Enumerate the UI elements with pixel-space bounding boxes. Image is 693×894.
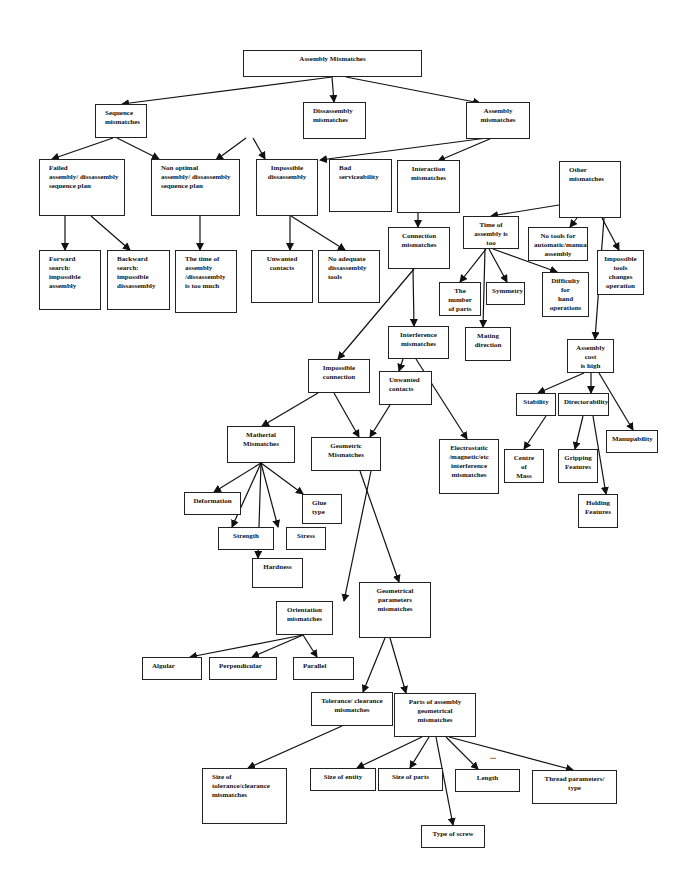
node-label: Other mismatches: [569, 166, 615, 184]
node-imptools: Impossible tools changes operation: [597, 250, 644, 295]
arrow: [524, 416, 546, 449]
node-label: Parallel: [303, 662, 348, 671]
arrow: [253, 138, 265, 159]
node-noadeq: No adequate dissassembly tools: [318, 250, 380, 303]
node-label: Mating direction: [471, 332, 505, 350]
node-cost: Assembly cost is high: [567, 339, 614, 373]
arrow: [460, 249, 486, 282]
node-timedis: The time of assembly /dissassembly is to…: [175, 250, 237, 313]
node-inter: Interaction mismatches: [397, 160, 460, 213]
node-label: Sequence mismatches: [105, 109, 141, 127]
node-label: Size of parts: [384, 773, 437, 782]
node-stab: Stability: [516, 393, 556, 416]
node-label: No tools for automatic/manual assembly: [534, 232, 582, 259]
arrow: [446, 737, 478, 769]
node-other: Other mismatches: [559, 161, 621, 218]
node-label: Thread parameters/ type: [538, 775, 611, 793]
node-hardness: Hardness: [252, 558, 303, 588]
node-label: Holding Features: [584, 499, 612, 517]
node-label: Dissassembly mismatches: [313, 107, 360, 125]
arrow: [602, 218, 619, 250]
node-label: Assembly mismatches: [472, 107, 524, 125]
arrow: [570, 218, 577, 227]
node-nonopt: Non optimal assembly/ dissassembly seque…: [151, 159, 240, 216]
node-label: Failed assembly/ dissassembly sequence p…: [49, 164, 119, 191]
arrow: [261, 463, 278, 527]
node-label: No adequate dissassembly tools: [328, 255, 374, 282]
node-mating: Mating direction: [465, 327, 511, 361]
node-root: Assembly Mismatches: [243, 50, 422, 77]
node-stress: Stress: [286, 527, 326, 550]
arrow: [190, 635, 303, 657]
node-unwcont2: Unwanted contacts: [379, 371, 432, 405]
node-geom: Geometric Mismatches: [311, 437, 381, 471]
node-geompar: Geometrical parameters mismatches: [359, 582, 431, 638]
node-bwd: Backward search: impossible dissassembly: [107, 250, 170, 310]
node-label: Size of entity: [316, 773, 370, 782]
node-label: Deformation: [190, 497, 235, 506]
node-orient: Orientation mismatches: [276, 601, 333, 635]
node-label: Glue type: [312, 499, 336, 517]
node-unwcont1: Unwanted contacts: [251, 250, 313, 303]
arrow: [399, 359, 403, 371]
node-notools: No tools for automatic/manual assembly: [528, 227, 588, 261]
arrow: [248, 726, 342, 768]
arrow: [332, 77, 334, 102]
node-dis: Dissassembly mismatches: [303, 102, 366, 139]
arrow: [363, 638, 385, 692]
node-label: Unwanted contacts: [389, 376, 426, 394]
node-electro: Electrostatic /magnetic/etc interference…: [439, 439, 499, 494]
node-thread: Thread parameters/ type: [532, 770, 617, 804]
node-screw: Type of screw: [421, 825, 485, 848]
arrow: [261, 463, 303, 494]
node-interf: Interference mismatches: [388, 326, 449, 359]
node-label: Directorability: [564, 398, 603, 407]
node-label: Geometrical parameters mismatches: [365, 587, 425, 614]
node-label: Symmetry: [492, 287, 519, 296]
node-label: Time of assembly is too much: [469, 221, 513, 249]
arrow: [360, 471, 399, 582]
node-label: Interaction mismatches: [403, 165, 454, 183]
arrow: [303, 635, 317, 657]
node-holding: Holding Features: [578, 494, 618, 528]
node-label: Type of screw: [427, 830, 479, 839]
node-label: Perpendicular: [219, 662, 271, 671]
arrow: [291, 216, 345, 250]
node-label: Impossible tools changes operation: [603, 255, 638, 291]
node-label: Bad serviceability: [339, 164, 386, 182]
node-fwd: Forward search: impossible assembly: [39, 250, 101, 310]
node-label: Difficulty for hand operations: [548, 277, 583, 313]
node-numparts: The number of parts: [439, 282, 481, 316]
node-perp: Perpendicular: [209, 657, 277, 680]
node-mater: Matherial Mismatches: [227, 426, 295, 463]
node-length: Length: [455, 769, 520, 792]
arrow: [410, 737, 429, 768]
node-label: Assembly cost is high: [573, 344, 608, 371]
node-sizeent: Size of entity: [310, 768, 376, 791]
arrow: [538, 373, 584, 393]
node-label: Backward search: impossible dissassembly: [117, 255, 164, 291]
node-label: Impossible dissassembly: [262, 164, 312, 182]
node-label: Assembly Mismatches: [249, 55, 416, 64]
node-label: Parts of assembly geometrical mismatches: [400, 698, 470, 725]
node-label: Algular: [152, 662, 196, 671]
node-label: Connection mismatches: [394, 232, 444, 250]
node-glue: Glue type: [302, 494, 342, 524]
node-label: Impossible connection: [314, 364, 364, 382]
node-label: Stress: [292, 532, 320, 541]
node-parallel: Parallel: [293, 657, 354, 680]
node-deform: Deformation: [184, 492, 241, 515]
node-strength: Strength: [218, 527, 274, 550]
node-label: Length: [461, 774, 514, 783]
node-gripping: Gripping Features: [558, 449, 598, 483]
node-label: Unwanted contacts: [257, 255, 307, 273]
node-parts: Parts of assembly geometrical mismatches: [394, 693, 476, 737]
arrow: [52, 138, 113, 159]
node-label: Hardness: [258, 563, 297, 572]
arrow: [214, 463, 261, 492]
node-label: Strength: [224, 532, 268, 541]
arrow: [91, 216, 130, 250]
node-manip: Manupability: [606, 430, 658, 453]
arrow: [438, 138, 492, 161]
node-label: Orientation mismatches: [282, 606, 327, 624]
